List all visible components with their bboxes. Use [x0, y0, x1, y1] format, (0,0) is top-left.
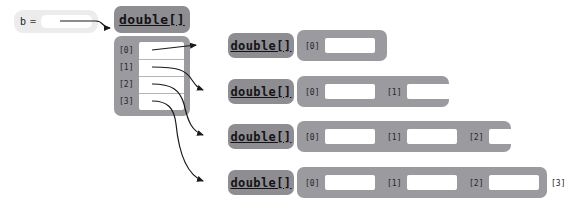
assignment-operator: =: [30, 16, 36, 27]
inner-array-1-slot-0: [325, 84, 375, 99]
inner-array-1-body: [0] [1]: [297, 76, 449, 107]
inner-array-3-type-label: double[]: [231, 176, 292, 190]
variable-name: b: [20, 16, 26, 27]
inner-array-2-slot-1: [407, 129, 457, 144]
inner-array-1-type-label: double[]: [231, 85, 292, 99]
cell-divider: [139, 59, 184, 60]
outer-array-cell-stack: [139, 42, 184, 110]
inner-array-3-index-3: [3]: [551, 179, 565, 188]
inner-array-3-index-1: [1]: [387, 179, 401, 188]
cell-divider: [139, 76, 184, 77]
inner-array-2-index-2: [2]: [469, 133, 483, 142]
outer-array-index-1: [1]: [119, 63, 133, 72]
inner-array-0-index-0: [0]: [305, 42, 319, 51]
inner-array-3-header: double[]: [228, 170, 294, 195]
inner-array-2-type-label: double[]: [231, 130, 292, 144]
variable-pointer-slot: [41, 15, 92, 28]
inner-array-2-body: [0] [1] [2]: [297, 121, 511, 152]
outer-array-header: double[]: [114, 6, 190, 33]
outer-array-index-0: [0]: [119, 46, 133, 55]
inner-array-0-body: [0]: [297, 30, 387, 61]
inner-array-2-slot-2: [489, 129, 539, 144]
inner-array-0-slot-0: [325, 38, 375, 53]
inner-array-2-index-0: [0]: [305, 133, 319, 142]
inner-array-2-slot-0: [325, 129, 375, 144]
outer-array-index-2: [2]: [119, 80, 133, 89]
variable-reference-box: b =: [14, 10, 98, 33]
inner-array-1-slot-1: [407, 84, 457, 99]
outer-array-type-label: double[]: [119, 12, 185, 27]
inner-array-3-slot-2: [489, 175, 539, 190]
inner-array-0-type-label: double[]: [231, 39, 292, 53]
inner-array-2-index-1: [1]: [387, 133, 401, 142]
inner-array-1-header: double[]: [228, 79, 294, 104]
inner-array-3-index-2: [2]: [469, 179, 483, 188]
inner-array-3-slot-1: [407, 175, 457, 190]
inner-array-3-index-0: [0]: [305, 179, 319, 188]
inner-array-0-header: double[]: [228, 33, 294, 58]
inner-array-1-index-0: [0]: [305, 88, 319, 97]
outer-array-index-3: [3]: [119, 97, 133, 106]
inner-array-2-header: double[]: [228, 124, 294, 149]
cell-divider: [139, 93, 184, 94]
inner-array-3-body: [0] [1] [2] [3]: [297, 167, 547, 198]
inner-array-3-slot-0: [325, 175, 375, 190]
inner-array-1-index-1: [1]: [387, 88, 401, 97]
